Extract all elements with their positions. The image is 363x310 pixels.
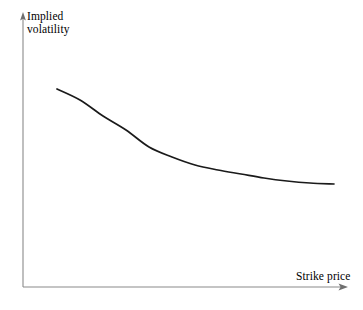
x-axis-label: Strike price — [296, 270, 351, 283]
y-axis-label-line-1: Implied — [27, 10, 70, 23]
implied-volatility-skew-figure: Implied volatility Strike price — [0, 0, 363, 310]
y-axis-label: Implied volatility — [27, 10, 70, 35]
implied-volatility-curve — [57, 89, 334, 184]
chart-canvas — [0, 0, 363, 310]
y-axis-label-line-2: volatility — [27, 23, 70, 36]
